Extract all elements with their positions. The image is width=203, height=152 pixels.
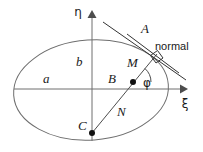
xi-axis-arrowhead-icon xyxy=(180,85,188,94)
normal-label: normal xyxy=(155,40,189,52)
angle-phi-label: φ xyxy=(143,76,151,90)
region-N-label: N xyxy=(116,104,127,119)
ellipse-outline xyxy=(10,35,172,146)
ray-C-to-M xyxy=(92,54,157,133)
region-b-label: b xyxy=(76,54,83,69)
region-B-label: B xyxy=(108,71,116,86)
region-a-label: a xyxy=(43,71,50,86)
xi-axis-label: ξ xyxy=(182,97,189,111)
ellipse-diagram: η ξ A normal M B φ b a N C xyxy=(0,0,203,152)
point-C-label: C xyxy=(78,118,87,133)
point-C-dot xyxy=(89,130,95,136)
figure-container: η ξ A normal M B φ b a N C xyxy=(0,0,203,152)
eta-axis-arrowhead-icon xyxy=(88,10,97,18)
point-B-dot xyxy=(130,79,136,85)
eta-axis-label: η xyxy=(74,5,82,19)
point-M-label: M xyxy=(126,55,139,70)
point-A-label: A xyxy=(140,21,149,36)
